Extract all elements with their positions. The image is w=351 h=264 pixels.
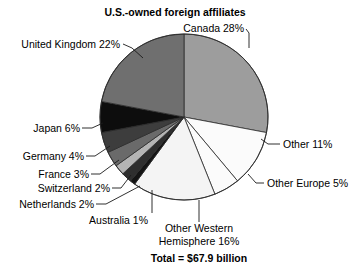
slice-label-japan: Japan 6%	[33, 122, 80, 134]
pie-chart-figure: U.S.-owned foreign affiliates	[0, 0, 351, 264]
pie-chart-svg: U.S.-owned foreign affiliates	[0, 0, 351, 264]
slice-label-netherlands: Netherlands 2%	[19, 198, 94, 210]
slice-label-switzerland: Switzerland 2%	[38, 182, 110, 194]
slice-label-other: Other 11%	[283, 138, 332, 150]
pie-slices-group	[100, 34, 268, 200]
slice-label-united-kingdom: United Kingdom 22%	[21, 38, 120, 50]
slice-label-germany: Germany 4%	[23, 150, 84, 162]
total-label: Total = $67.9 billion	[151, 252, 247, 264]
chart-title: U.S.-owned foreign affiliates	[104, 6, 245, 18]
slice-label-other-western-hemisphere-line1: Other Western	[165, 222, 233, 234]
slice-label-canada: Canada 28%	[183, 22, 244, 34]
slice-label-other-europe: Other Europe 5%	[267, 177, 348, 189]
slice-label-other-western-hemisphere-line2: Hemisphere 16%	[159, 235, 240, 247]
slice-label-australia: Australia 1%	[89, 214, 148, 226]
slice-label-france: France 3%	[38, 168, 89, 180]
pie-slice-canada	[184, 34, 268, 133]
leader-line-other-europe	[248, 174, 264, 183]
leader-line-canada	[246, 29, 249, 48]
